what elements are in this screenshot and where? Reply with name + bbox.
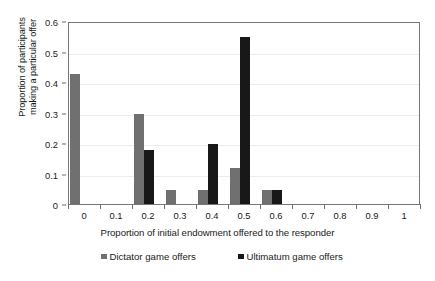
y-tick-mark [62, 22, 66, 23]
legend-item-dictator[interactable]: Dictator game offers [101, 251, 196, 262]
y-tick-label: 0 [53, 200, 58, 211]
y-tick-mark [62, 174, 66, 175]
x-tick-mark [132, 205, 133, 209]
bar [272, 190, 282, 205]
y-axis-title-line-1: Proportion of participants [17, 17, 28, 117]
x-tick-label: 0.9 [365, 210, 378, 221]
x-tick-label: 0.4 [205, 210, 218, 221]
x-axis-ticks: 00.10.20.30.40.50.60.70.80.91 [68, 205, 421, 227]
x-tick-label: 0.7 [301, 210, 314, 221]
y-tick-label: 0.3 [45, 108, 58, 119]
legend-item-ultimatum[interactable]: Ultimatum game offers [238, 251, 343, 262]
x-tick-mark [260, 205, 261, 209]
bar [262, 190, 272, 205]
legend-swatch-icon-ultimatum [238, 254, 244, 260]
legend-label-ultimatum: Ultimatum game offers [247, 251, 343, 262]
legend-swatch-icon-dictator [101, 254, 107, 260]
plot-area [68, 22, 420, 205]
x-tick-mark [164, 205, 165, 209]
bar [240, 37, 250, 205]
x-tick-label: 0.2 [141, 210, 154, 221]
x-tick-mark [356, 205, 357, 209]
y-tick-label: 0.2 [45, 139, 58, 150]
bar [70, 74, 80, 205]
y-tick-mark [62, 52, 66, 53]
y-axis-ticks: 00.10.20.30.40.50.6 [34, 22, 62, 205]
x-tick-label: 0 [81, 210, 86, 221]
x-tick-mark [420, 205, 421, 209]
x-tick-label: 0.3 [173, 210, 186, 221]
x-tick-mark [228, 205, 229, 209]
x-axis-title: Proportion of initial endowment offered … [0, 227, 435, 238]
legend-label-dictator: Dictator game offers [110, 251, 196, 262]
bar [208, 144, 218, 205]
y-tick-label: 0.5 [45, 47, 58, 58]
y-tick-mark [62, 113, 66, 114]
y-tick-label: 0.1 [45, 169, 58, 180]
x-tick-mark [100, 205, 101, 209]
x-tick-mark [292, 205, 293, 209]
chart-figure: Proportion of participants making a part… [0, 0, 435, 281]
bar [144, 150, 154, 205]
y-tick-label: 0.4 [45, 78, 58, 89]
y-tick-label: 0.6 [45, 17, 58, 28]
y-tick-mark [62, 144, 66, 145]
bar [166, 190, 176, 205]
x-tick-label: 0.5 [237, 210, 250, 221]
x-tick-mark [324, 205, 325, 209]
x-tick-mark [388, 205, 389, 209]
x-tick-mark [68, 205, 69, 209]
y-tick-mark [62, 83, 66, 84]
y-tick-mark [62, 205, 66, 206]
bar [198, 190, 208, 205]
x-tick-label: 0.6 [269, 210, 282, 221]
bar [230, 168, 240, 205]
bar [134, 114, 144, 206]
x-tick-label: 0.8 [333, 210, 346, 221]
bars-layer [69, 23, 419, 205]
x-tick-label: 0.1 [109, 210, 122, 221]
chart-legend: Dictator game offers Ultimatum game offe… [0, 251, 435, 267]
x-tick-label: 1 [401, 210, 406, 221]
x-tick-mark [196, 205, 197, 209]
